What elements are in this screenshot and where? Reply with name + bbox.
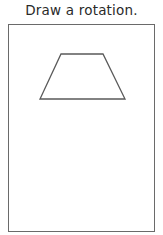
trapezoid-polygon bbox=[40, 54, 125, 99]
trapezoid-shape bbox=[0, 0, 163, 235]
